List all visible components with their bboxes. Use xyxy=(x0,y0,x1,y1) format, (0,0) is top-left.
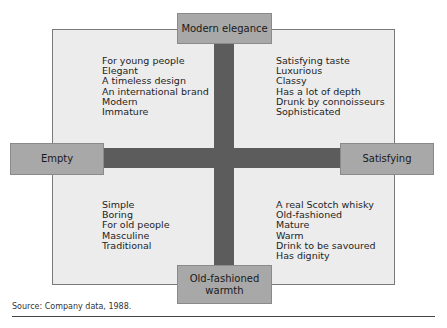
pole-label: Modern elegance xyxy=(181,23,267,35)
pole-label: Empty xyxy=(41,153,73,165)
attribute-item: Has dignity xyxy=(276,251,376,261)
pole-satisfying: Satisfying xyxy=(340,143,434,175)
attribute-item: Sophisticated xyxy=(276,107,385,117)
quadrant-top-right: Satisfying taste Luxurious Classy Has a … xyxy=(276,56,385,117)
pole-label: Old-fashioned warmth xyxy=(190,273,260,297)
pole-old-fashioned-warmth: Old-fashioned warmth xyxy=(177,265,272,304)
quadrant-top-left: For young people Elegant A timeless desi… xyxy=(102,56,209,117)
pole-label: Satisfying xyxy=(362,153,411,165)
attribute-item: Immature xyxy=(102,107,209,117)
attribute-item: Traditional xyxy=(102,241,170,251)
pole-modern-elegance: Modern elegance xyxy=(177,13,272,44)
pole-empty: Empty xyxy=(10,143,104,175)
horizontal-axis-bar xyxy=(100,148,345,168)
quadrant-bottom-left: Simple Boring For old people Masculine T… xyxy=(102,200,170,251)
quadrant-bottom-right: A real Scotch whisky Old-fashioned Matur… xyxy=(276,200,376,261)
source-note: Source: Company data, 1988. xyxy=(12,302,131,311)
bottom-rule-divider xyxy=(12,316,435,317)
